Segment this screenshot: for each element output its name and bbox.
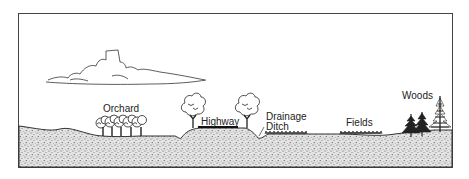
drainage-ditch-label-line2: Ditch (266, 122, 289, 132)
woods-label: Woods (402, 91, 433, 101)
highway-label: Highway (201, 117, 239, 127)
landscape-diagram: Orchard Highway Drainage Ditch Fields Wo… (0, 0, 469, 179)
fields-label: Fields (346, 118, 373, 128)
diagram-canvas (0, 0, 469, 179)
orchard-label: Orchard (103, 104, 139, 114)
